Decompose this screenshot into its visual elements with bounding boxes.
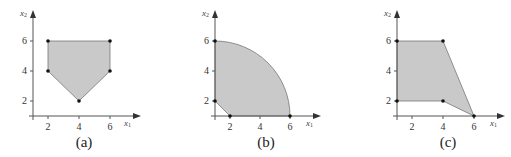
- x-axis-arrow-icon: [497, 113, 505, 119]
- y-axis-arrow-icon: [212, 10, 218, 18]
- x-tick-label: 2: [410, 121, 415, 132]
- y-tick-label: 6: [22, 35, 27, 46]
- y-tick-label: 4: [22, 65, 27, 76]
- y-tick-label: 6: [386, 35, 391, 46]
- y-tick-label: 2: [22, 95, 27, 106]
- y-axis-label: x2: [383, 8, 391, 18]
- x-axis-label: x1: [305, 118, 313, 128]
- caption-c: (c): [440, 134, 457, 151]
- x-tick-label: 2: [228, 121, 233, 132]
- x-tick-label: 6: [108, 121, 113, 132]
- x-tick-label: 2: [46, 121, 51, 132]
- vertex-dot: [77, 99, 81, 103]
- panel-a: 2 4 6 2 4 6 x1 x2 (a): [19, 8, 141, 151]
- y-axis-arrow-icon: [394, 10, 400, 18]
- y-axis-arrow-icon: [30, 10, 36, 18]
- vertex-dot: [46, 69, 50, 73]
- x-axis-arrow-icon: [313, 113, 321, 119]
- vertex-dot: [441, 99, 445, 103]
- vertex-dot: [108, 39, 112, 43]
- panel-c: 2 4 6 2 4 6 x1 x2 (c): [383, 8, 505, 151]
- vertex-dot: [472, 114, 476, 118]
- y-tick-label: 4: [386, 65, 391, 76]
- feasible-region-a: [48, 41, 110, 101]
- x-tick-label: 4: [258, 121, 263, 132]
- y-tick-label: 4: [204, 65, 209, 76]
- y-tick-label: 6: [204, 35, 209, 46]
- x-tick-label: 6: [288, 121, 293, 132]
- vertex-dot: [441, 39, 445, 43]
- x-tick-label: 4: [77, 121, 82, 132]
- y-tick-label: 2: [386, 95, 391, 106]
- y-axis-label: x2: [201, 8, 209, 18]
- vertex-dot: [46, 39, 50, 43]
- vertex-dot: [213, 39, 217, 43]
- panel-b: 2 4 6 2 4 6 x1 x2 (b): [201, 8, 321, 151]
- feasible-region-b: [215, 41, 290, 116]
- x-tick-label: 4: [441, 121, 446, 132]
- vertex-dot: [288, 114, 292, 118]
- vertex-dot: [108, 69, 112, 73]
- x-axis-arrow-icon: [133, 113, 141, 119]
- figure-canvas: 2 4 6 2 4 6 x1 x2 (a) 2 4 6 2 4 6: [0, 0, 511, 157]
- y-tick-label: 2: [204, 95, 209, 106]
- caption-a: (a): [76, 134, 93, 151]
- caption-b: (b): [257, 134, 275, 151]
- vertex-dot: [228, 114, 232, 118]
- x-axis-label: x1: [489, 118, 497, 128]
- vertex-dot: [213, 99, 217, 103]
- vertex-dot: [395, 39, 399, 43]
- y-axis-label: x2: [19, 8, 27, 18]
- x-tick-label: 6: [472, 121, 477, 132]
- feasible-region-c: [397, 41, 474, 116]
- x-axis-label: x1: [123, 118, 131, 128]
- vertex-dot: [395, 99, 399, 103]
